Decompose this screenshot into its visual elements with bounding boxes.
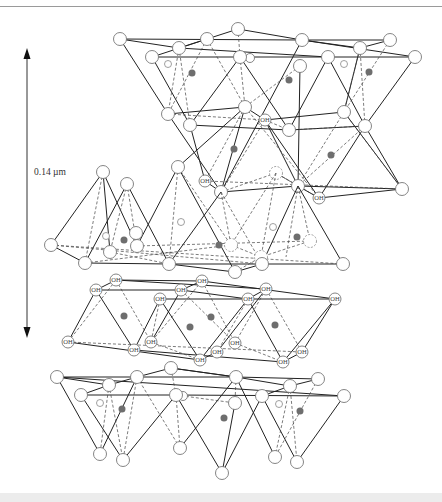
cation-atoms bbox=[121, 234, 301, 249]
svg-text:OH: OH bbox=[146, 338, 156, 345]
svg-text:OH: OH bbox=[230, 339, 240, 346]
svg-text:OH: OH bbox=[197, 277, 207, 284]
oxygen-atoms bbox=[114, 23, 422, 199]
crystal-structure-diagram: OH OH OH bbox=[0, 0, 442, 502]
scale-label: 0.14 µm bbox=[34, 167, 66, 177]
svg-text:OH: OH bbox=[243, 295, 253, 302]
svg-text:OH: OH bbox=[330, 295, 340, 302]
layer-lower bbox=[51, 362, 351, 480]
cation-atoms bbox=[121, 313, 279, 331]
svg-text:OH: OH bbox=[129, 346, 139, 353]
svg-text:OH: OH bbox=[260, 116, 270, 123]
svg-text:OH: OH bbox=[314, 194, 324, 201]
layer-gibbsite: OH OH OH OH OH OH OH OH OH OH OH OH OH O… bbox=[62, 274, 341, 368]
oxygen-atoms bbox=[45, 161, 350, 279]
svg-text:OH: OH bbox=[212, 348, 222, 355]
oh-groups: OH OH OH OH OH OH OH OH OH OH OH OH OH O… bbox=[62, 274, 341, 368]
svg-text:OH: OH bbox=[297, 348, 307, 355]
svg-text:OH: OH bbox=[278, 358, 288, 365]
svg-text:OH: OH bbox=[200, 177, 210, 184]
svg-text:OH: OH bbox=[91, 286, 101, 293]
scale-arrow bbox=[24, 48, 31, 338]
svg-text:OH: OH bbox=[176, 286, 186, 293]
silicon-atoms bbox=[165, 61, 348, 68]
layer-middle bbox=[45, 161, 350, 279]
layer-upper: OH OH OH bbox=[114, 23, 422, 205]
svg-text:OH: OH bbox=[195, 356, 205, 363]
svg-text:OH: OH bbox=[261, 285, 271, 292]
svg-text:OH: OH bbox=[155, 295, 165, 302]
svg-text:OH: OH bbox=[63, 338, 73, 345]
svg-text:OH: OH bbox=[111, 276, 121, 283]
